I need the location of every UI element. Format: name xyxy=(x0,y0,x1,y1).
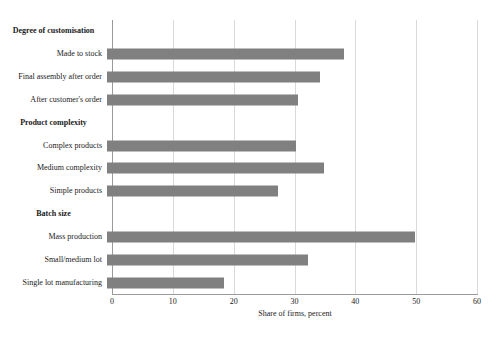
bar xyxy=(107,72,320,83)
bar xyxy=(107,94,298,105)
bar-cell xyxy=(107,271,501,294)
bar-cell xyxy=(107,66,501,89)
chart-bar-row: Medium complexity xyxy=(0,157,501,180)
group-label: Batch size xyxy=(0,209,107,219)
bar-cell xyxy=(107,134,501,157)
bar xyxy=(107,186,278,197)
bar-cell xyxy=(107,180,501,203)
category-label: Final assembly after order xyxy=(0,72,107,82)
category-label: After customer's order xyxy=(0,95,107,105)
chart-bar-row: Single lot manufacturing xyxy=(0,271,501,294)
chart-bar-row: After customer's order xyxy=(0,89,501,112)
bar xyxy=(107,231,415,242)
category-label: Medium complexity xyxy=(0,163,107,173)
x-tick-label: 0 xyxy=(110,296,114,308)
bar-chart: Degree of customisationMade to stockFina… xyxy=(0,0,501,337)
chart-bar-row: Simple products xyxy=(0,180,501,203)
category-label: Small/medium lot xyxy=(0,255,107,265)
x-tick-label: 60 xyxy=(473,296,481,308)
x-tick-label: 20 xyxy=(230,296,238,308)
chart-group-header: Degree of customisation xyxy=(0,20,501,43)
group-label: Degree of customisation xyxy=(0,26,107,36)
chart-bar-row: Small/medium lot xyxy=(0,248,501,271)
bar xyxy=(107,277,224,288)
bar-cell xyxy=(107,203,501,226)
bar-cell xyxy=(107,248,501,271)
bar-cell xyxy=(107,226,501,249)
x-tick-label: 10 xyxy=(169,296,177,308)
group-label: Product complexity xyxy=(0,118,107,128)
bar xyxy=(107,140,296,151)
chart-bar-row: Final assembly after order xyxy=(0,66,501,89)
chart-group-header: Product complexity xyxy=(0,111,501,134)
bar-cell xyxy=(107,157,501,180)
x-tick-label: 30 xyxy=(291,296,299,308)
bar-cell xyxy=(107,43,501,66)
chart-bar-row: Complex products xyxy=(0,134,501,157)
x-tick-label: 50 xyxy=(412,296,420,308)
x-axis-baseline xyxy=(112,294,478,295)
x-tick-label: 40 xyxy=(351,296,359,308)
category-label: Mass production xyxy=(0,232,107,242)
category-label: Simple products xyxy=(0,186,107,196)
category-label: Made to stock xyxy=(0,49,107,59)
bar-cell xyxy=(107,111,501,134)
category-label: Complex products xyxy=(0,141,107,151)
bar xyxy=(107,254,308,265)
bar-cell xyxy=(107,89,501,112)
bar xyxy=(107,49,344,60)
chart-bar-row: Made to stock xyxy=(0,43,501,66)
category-label: Single lot manufacturing xyxy=(0,278,107,288)
chart-rows: Degree of customisationMade to stockFina… xyxy=(0,20,501,294)
bar-cell xyxy=(107,20,501,43)
chart-bar-row: Mass production xyxy=(0,226,501,249)
x-axis-title: Share of firms, percent xyxy=(112,308,478,319)
bar xyxy=(107,163,324,174)
chart-group-header: Batch size xyxy=(0,203,501,226)
